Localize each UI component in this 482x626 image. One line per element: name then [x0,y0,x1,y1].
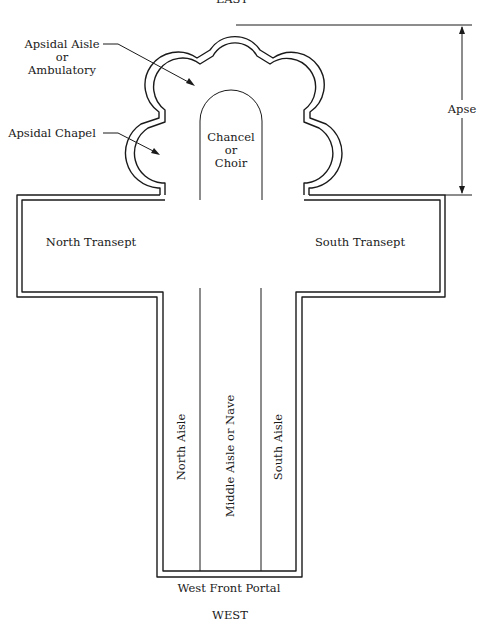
apse-label: Apse [447,102,477,116]
apsidal-chapel-label: Apsidal Chapel [7,126,96,140]
apsidal-aisle-leader [103,44,195,86]
apsidal-chapel-leader [103,133,160,155]
arrow-up-icon [459,26,465,34]
east-label: EAST [216,0,249,6]
plan-svg: EAST Apse Apsidal Aisle or Ambulatory Ap… [0,0,482,626]
chancel-label-3: Choir [215,156,248,170]
west-label: WEST [212,608,248,622]
south-aisle-label: South Aisle [271,414,285,480]
west-front-portal-label: West Front Portal [178,581,281,595]
chancel-label-1: Chancel [207,130,255,144]
arrow-icon [186,78,195,86]
transept-nave-walls [17,195,445,577]
north-aisle-label: North Aisle [174,414,188,481]
arrow-icon [151,148,160,155]
apse-walls [125,37,341,195]
apse-dimension [236,25,472,195]
arrow-down-icon [459,186,465,194]
north-transept-label: North Transept [46,235,137,249]
chancel-label-2: or [225,143,238,157]
apsidal-aisle-label-1: Apsidal Aisle [23,37,99,51]
apsidal-aisle-label-3: Ambulatory [27,63,97,77]
apsidal-aisle-label-2: or [56,50,69,64]
cathedral-floor-plan: EAST Apse Apsidal Aisle or Ambulatory Ap… [0,0,482,626]
south-transept-label: South Transept [315,235,405,249]
middle-aisle-label: Middle Aisle or Nave [223,394,237,517]
